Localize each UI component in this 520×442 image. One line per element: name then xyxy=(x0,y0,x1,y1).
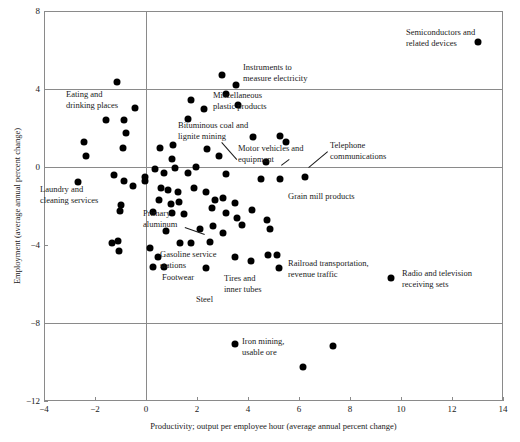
data-point xyxy=(257,175,264,182)
data-point xyxy=(168,155,175,162)
data-point xyxy=(120,117,127,124)
x-tick-label-10: 10 xyxy=(397,404,406,414)
annotation-plastics: Miscellaneous plastic products xyxy=(213,90,267,111)
y-tick-8 xyxy=(44,11,48,12)
data-point xyxy=(233,214,240,221)
y-tick-label-4: 4 xyxy=(22,84,40,94)
annotation-semiconductors: Semiconductors and related devices xyxy=(406,27,475,48)
data-point xyxy=(263,217,270,224)
data-point xyxy=(155,197,162,204)
x-tick-label-8: 8 xyxy=(348,404,353,414)
x-tick-14 xyxy=(503,397,504,401)
y-tick-label-8: 8 xyxy=(22,6,40,16)
data-point xyxy=(301,173,308,180)
data-point xyxy=(80,138,87,145)
data-point xyxy=(248,206,255,213)
annotation-gasoline: Gasoline service stations xyxy=(160,249,216,270)
data-point xyxy=(116,208,123,215)
x-tick-label-2: 2 xyxy=(195,404,200,414)
annotation-telephone: Telephone communications xyxy=(330,140,386,161)
x-axis-title: Productivity; output per employee hour (… xyxy=(150,421,396,431)
gridline-y-0 xyxy=(44,167,503,168)
data-point xyxy=(151,166,158,173)
data-point xyxy=(219,230,226,237)
annotation-bituminous: Bituminous coal and lignite mining xyxy=(178,120,248,141)
data-point xyxy=(157,185,164,192)
annotation-radiotv: Radio and television receiving sets xyxy=(402,268,472,289)
y-tick--4 xyxy=(44,245,48,246)
annotation-laundry: Laundry and cleaning services xyxy=(40,184,98,205)
data-point xyxy=(276,265,283,272)
data-point xyxy=(274,251,281,258)
data-point xyxy=(266,226,273,233)
data-point xyxy=(83,153,90,160)
data-point xyxy=(146,244,153,251)
y-axis-title: Employment (average annual percent chang… xyxy=(12,128,22,284)
data-point xyxy=(177,240,184,247)
data-point xyxy=(169,141,176,148)
data-point xyxy=(330,343,337,350)
annotation-tires: Tires and inner tubes xyxy=(224,273,262,294)
data-point xyxy=(113,79,120,86)
x-tick-10 xyxy=(401,397,402,401)
annotation-ironmining: Iron mining, usable ore xyxy=(242,336,285,357)
x-tick-2 xyxy=(197,397,198,401)
annotation-footwear: Footwear xyxy=(162,272,194,283)
y-tick-4 xyxy=(44,89,48,90)
annotation-primaryalum: Primary aluminum xyxy=(143,208,177,229)
data-point xyxy=(201,105,208,112)
data-point xyxy=(165,187,172,194)
data-point xyxy=(276,132,283,139)
gridline-x-0 xyxy=(146,11,147,401)
x-tick-label-14: 14 xyxy=(499,404,508,414)
data-point xyxy=(239,221,246,228)
data-point xyxy=(233,82,240,89)
y-tick-label-0: 0 xyxy=(22,162,40,172)
data-point xyxy=(223,171,230,178)
annotation-eating: Eating and drinking places xyxy=(66,89,118,110)
y-tick--12 xyxy=(44,401,48,402)
x-tick-12 xyxy=(452,397,453,401)
data-point xyxy=(223,209,230,216)
data-point xyxy=(211,197,218,204)
x-tick-8 xyxy=(350,397,351,401)
data-point xyxy=(114,238,121,245)
data-point xyxy=(167,201,174,208)
data-point xyxy=(122,130,129,137)
data-point xyxy=(232,200,239,207)
gridline-y--8 xyxy=(44,323,503,324)
y-tick-label--12: −12 xyxy=(22,396,40,406)
data-point xyxy=(206,239,213,246)
y-tick--8 xyxy=(44,323,48,324)
data-point xyxy=(175,189,182,196)
annotation-instruments: Instruments to measure electricity xyxy=(243,62,307,83)
data-point xyxy=(192,164,199,171)
data-point xyxy=(185,169,192,176)
data-point xyxy=(160,170,167,177)
data-point xyxy=(209,204,216,211)
data-point xyxy=(120,144,127,151)
x-tick-6 xyxy=(299,397,300,401)
x-tick-label--2: −2 xyxy=(90,404,100,414)
x-tick-4 xyxy=(248,397,249,401)
data-point xyxy=(265,251,272,258)
data-point xyxy=(232,253,239,260)
y-tick-label--4: −4 xyxy=(22,240,40,250)
annotation-grainmill: Grain mill products xyxy=(288,191,355,202)
y-tick-label--8: −8 xyxy=(22,318,40,328)
data-point xyxy=(111,171,118,178)
annotation-motorvehicles: Motor vehicles and equipment xyxy=(238,143,304,164)
data-point xyxy=(232,341,239,348)
data-point xyxy=(299,364,306,371)
data-point xyxy=(190,185,197,192)
data-point xyxy=(277,176,284,183)
x-tick-0 xyxy=(146,397,147,401)
annotation-steel: Steel xyxy=(196,294,213,305)
x-tick-label--4: −4 xyxy=(39,404,49,414)
x-tick-label-4: 4 xyxy=(246,404,251,414)
data-point xyxy=(116,247,123,254)
y-tick-0 xyxy=(44,167,48,168)
x-tick--2 xyxy=(95,397,96,401)
data-point xyxy=(130,183,137,190)
data-point xyxy=(188,240,195,247)
